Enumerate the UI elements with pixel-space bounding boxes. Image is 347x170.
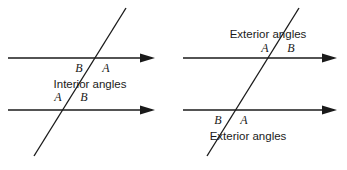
- right-bottom-left-angle-label: B: [214, 113, 222, 127]
- right-upper-arrowhead-icon: [322, 54, 337, 63]
- left-bottom-right-angle-label: B: [80, 90, 88, 104]
- right-lower-arrowhead-icon: [322, 106, 337, 115]
- right-top-right-angle-label: B: [287, 41, 295, 55]
- left-top-right-angle-label: A: [101, 61, 110, 75]
- right-bottom-right-angle-label: A: [239, 113, 248, 127]
- parallel-lines-transversal-diagram: B A Interior angles A B Exterior angles …: [0, 0, 347, 170]
- left-lower-arrowhead-icon: [140, 106, 155, 115]
- left-interior-angles-figure: B A Interior angles A B: [8, 8, 155, 156]
- right-caption-exterior-angles-bottom: Exterior angles: [210, 130, 287, 142]
- right-exterior-angles-figure: Exterior angles A B B A Exterior angles: [183, 8, 337, 156]
- left-bottom-left-angle-label: A: [53, 90, 62, 104]
- left-top-left-angle-label: B: [75, 61, 83, 75]
- geometry-figure-page: B A Interior angles A B Exterior angles …: [0, 0, 347, 170]
- left-caption-interior-angles: Interior angles: [54, 78, 127, 90]
- right-caption-exterior-angles-top: Exterior angles: [230, 28, 307, 40]
- right-top-left-angle-label: A: [260, 41, 269, 55]
- left-upper-arrowhead-icon: [140, 54, 155, 63]
